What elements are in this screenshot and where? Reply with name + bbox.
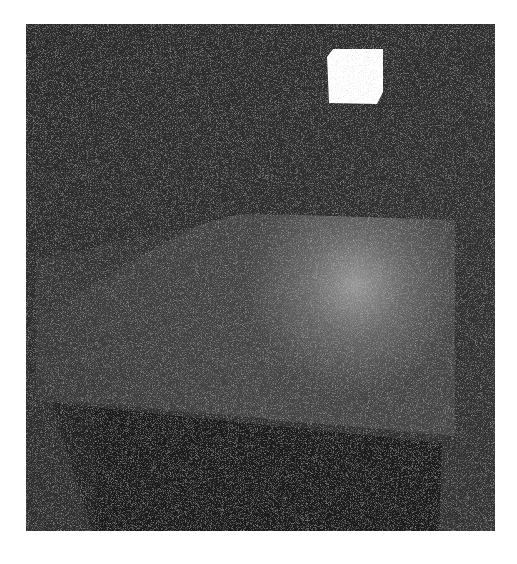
scene-render bbox=[0, 0, 517, 564]
light-cube bbox=[327, 49, 383, 104]
render-canvas: Noisy path-traced render of a dim room w… bbox=[0, 0, 517, 564]
